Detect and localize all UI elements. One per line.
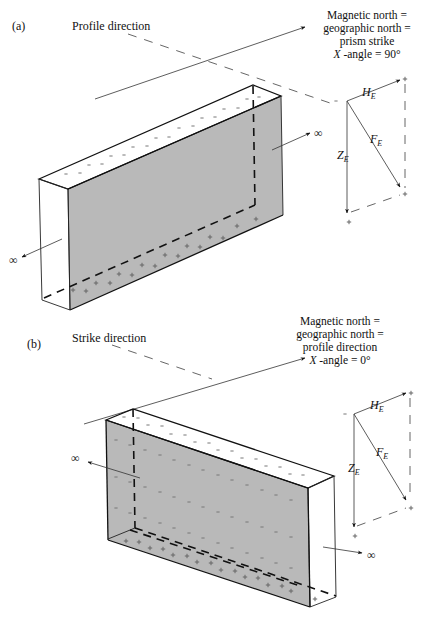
infinity-symbol: ∞ <box>314 126 323 140</box>
infinity-symbol: ∞ <box>367 548 376 562</box>
direction-label: Strike direction <box>72 331 146 345</box>
magnetic-prism-figure: (a) Profile direction Magnetic north = g… <box>0 0 426 618</box>
infinity-arrow-left <box>22 239 62 257</box>
profile-guide-dashed-line <box>128 34 330 103</box>
north-arrow <box>84 358 305 424</box>
panel-label: (a) <box>12 19 25 33</box>
infinity-symbol: ∞ <box>9 253 18 267</box>
north-note: Magnetic north = geographic north = pris… <box>323 9 411 61</box>
svg-text:prism strike: prism strike <box>340 35 395 48</box>
panel-b: (b) Strike direction Magnetic north = ge… <box>27 315 413 607</box>
svg-text:geographic north =: geographic north = <box>296 328 384 341</box>
direction-label: Profile direction <box>72 19 150 33</box>
infinity-arrow-right <box>323 547 362 553</box>
prism-end-face <box>39 179 70 310</box>
svg-text:FE: FE <box>375 445 388 461</box>
svg-text:HE: HE <box>361 85 376 101</box>
svg-text:HE: HE <box>369 398 384 414</box>
panel-a: (a) Profile direction Magnetic north = g… <box>9 9 411 310</box>
svg-text:FE: FE <box>369 132 382 148</box>
panel-label: (b) <box>27 337 41 351</box>
prism-a <box>39 85 283 310</box>
north-arrow <box>95 27 305 99</box>
svg-text:X -angle = 0°: X -angle = 0° <box>308 354 371 367</box>
prism-shaded-face <box>68 96 283 310</box>
field-vector-diagram: HE FE ZE <box>343 391 413 538</box>
svg-text:profile direction: profile direction <box>303 341 378 354</box>
strike-guide-dashed-line <box>112 345 212 379</box>
prism-b <box>106 409 336 607</box>
svg-text:geographic north =: geographic north = <box>323 22 411 35</box>
svg-text:Magnetic north =: Magnetic north = <box>327 9 407 22</box>
infinity-symbol: ∞ <box>71 451 80 465</box>
svg-text:X -angle = 90°: X -angle = 90° <box>333 48 401 61</box>
north-note: Magnetic north = geographic north = prof… <box>296 315 384 367</box>
svg-text:ZE: ZE <box>348 461 360 477</box>
svg-text:Magnetic north =: Magnetic north = <box>300 315 380 328</box>
field-vector-diagram: HE FE ZE <box>334 77 407 224</box>
